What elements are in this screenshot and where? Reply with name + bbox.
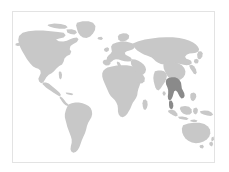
region-sumatra[interactable] bbox=[168, 110, 178, 117]
region-south-america[interactable] bbox=[65, 102, 92, 152]
region-japan-north[interactable] bbox=[194, 59, 199, 64]
region-russia-northern-asia[interactable] bbox=[133, 37, 199, 65]
region-hudson-bay-islands[interactable] bbox=[66, 29, 76, 34]
region-borneo[interactable] bbox=[180, 106, 192, 115]
region-florida[interactable] bbox=[59, 71, 62, 79]
region-caribbean[interactable] bbox=[66, 92, 74, 95]
region-mainland-southeast-asia[interactable] bbox=[166, 77, 185, 100]
region-central-america[interactable] bbox=[60, 96, 69, 106]
region-philippines[interactable] bbox=[190, 92, 196, 101]
region-mexico[interactable] bbox=[42, 82, 60, 96]
region-africa[interactable] bbox=[102, 65, 140, 117]
region-new-zealand-south[interactable] bbox=[209, 142, 213, 147]
region-canadian-arctic[interactable] bbox=[48, 24, 68, 29]
region-new-guinea[interactable] bbox=[200, 110, 213, 116]
region-madagascar[interactable] bbox=[142, 100, 147, 110]
region-new-zealand[interactable] bbox=[211, 136, 214, 141]
world-map[interactable] bbox=[13, 12, 214, 162]
region-sulawesi[interactable] bbox=[193, 108, 198, 115]
world-map-figure bbox=[0, 0, 229, 172]
region-tasmania[interactable] bbox=[200, 145, 204, 149]
region-british-isles[interactable] bbox=[104, 47, 109, 52]
region-korea-japan[interactable] bbox=[189, 65, 197, 75]
region-kamchatka[interactable] bbox=[197, 51, 203, 59]
region-java[interactable] bbox=[178, 116, 189, 120]
region-scandinavia[interactable] bbox=[118, 33, 129, 41]
region-australia[interactable] bbox=[182, 123, 211, 143]
map-frame bbox=[12, 11, 215, 163]
region-north-america[interactable] bbox=[18, 30, 78, 83]
region-lesser-sunda[interactable] bbox=[190, 120, 197, 122]
region-greenland[interactable] bbox=[76, 21, 95, 38]
region-malay-peninsula-highlight[interactable] bbox=[169, 100, 173, 109]
region-iceland[interactable] bbox=[97, 37, 103, 40]
region-sri-lanka[interactable] bbox=[163, 92, 166, 96]
region-europe[interactable] bbox=[107, 42, 135, 63]
region-india[interactable] bbox=[153, 70, 167, 90]
